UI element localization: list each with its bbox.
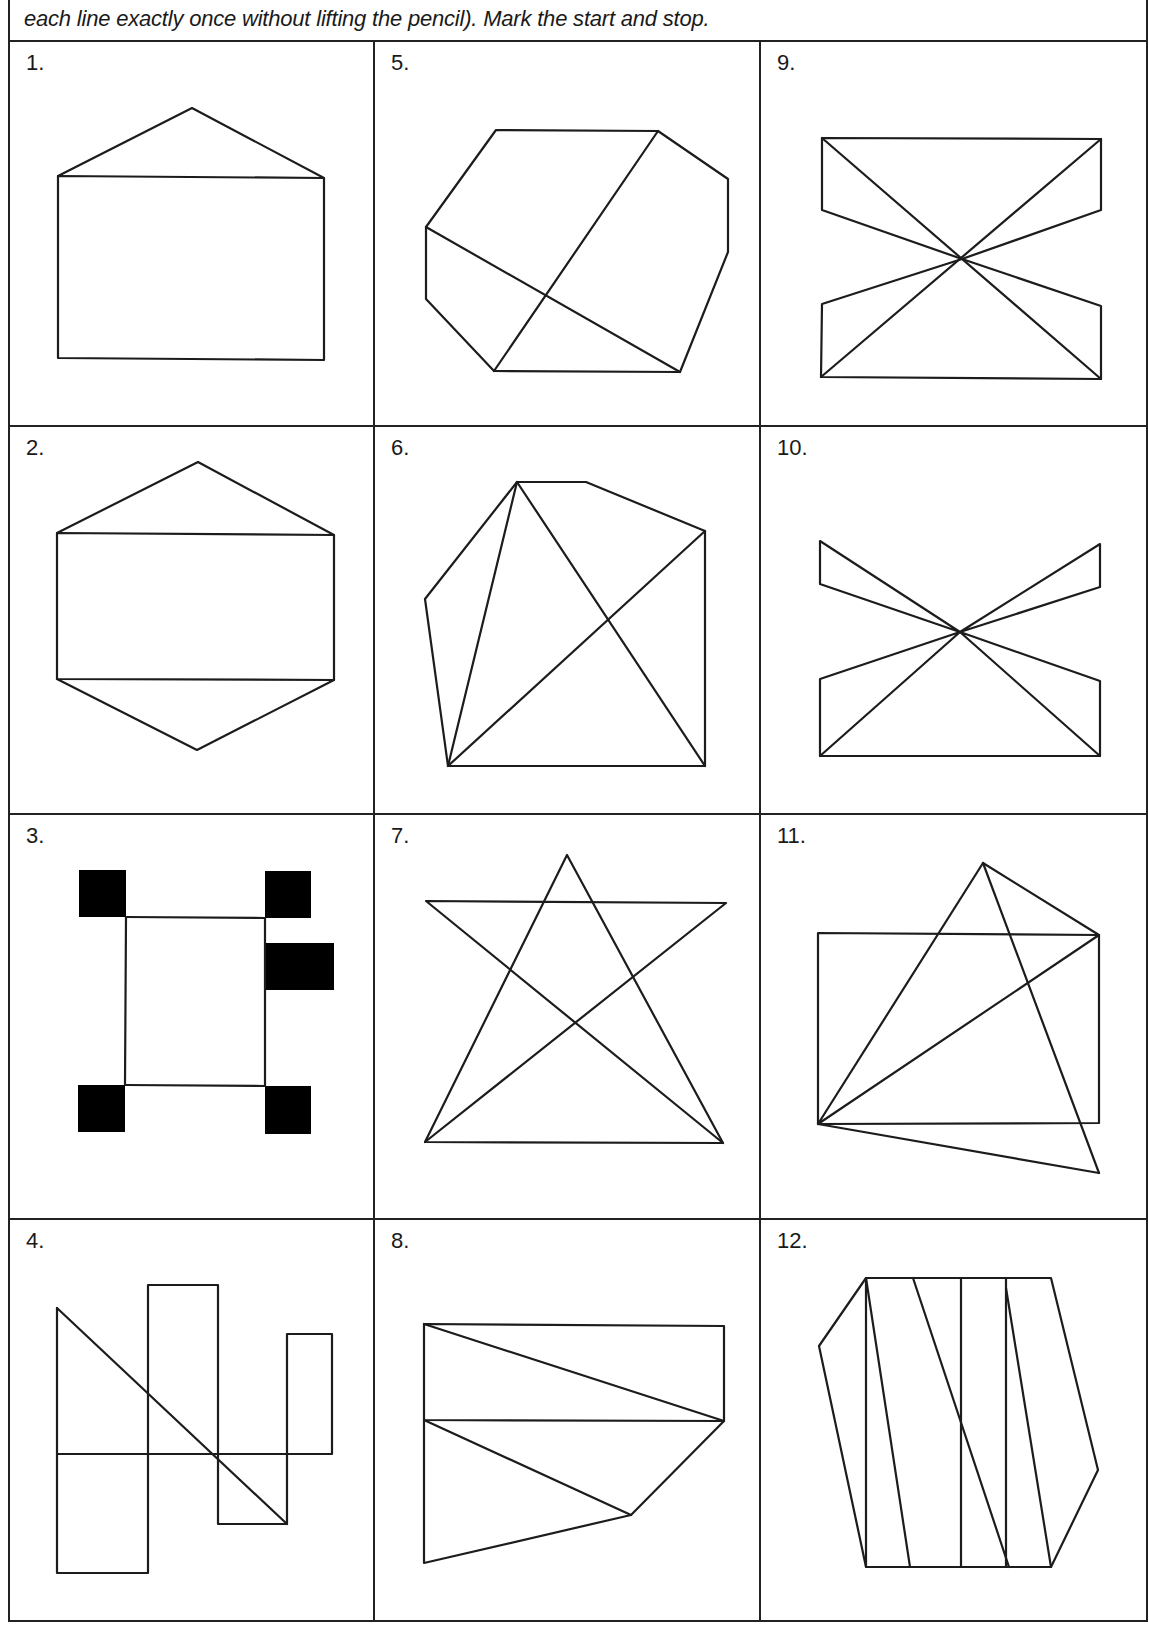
pentagon-diagonals-figure xyxy=(375,427,761,815)
rectangle-kite-figure xyxy=(761,815,1148,1220)
hexagon-figure xyxy=(10,427,377,815)
instruction-text: each line exactly once without lifting t… xyxy=(24,6,710,32)
square-frame-figure xyxy=(10,815,377,1220)
puzzle-cell-12: 12. xyxy=(761,1220,1148,1622)
hexagon-zigzag-figure xyxy=(761,1220,1148,1622)
bowtie-hourglass-figure xyxy=(761,427,1148,815)
puzzle-cell-8: 8. xyxy=(375,1220,761,1622)
puzzle-cell-5: 5. xyxy=(375,42,761,427)
octagon-figure xyxy=(375,42,761,427)
puzzle-cell-11: 11. xyxy=(761,815,1148,1220)
star-figure xyxy=(375,815,761,1220)
rectangle-hourglass-figure xyxy=(761,42,1148,427)
puzzle-cell-4: 4. xyxy=(8,1220,375,1622)
puzzle-cell-6: 6. xyxy=(375,427,761,815)
puzzle-cell-3: 3. xyxy=(8,815,375,1220)
house-shape-figure xyxy=(10,42,377,427)
rectangles-diagonal-figure xyxy=(10,1220,377,1622)
puzzle-cell-7: 7. xyxy=(375,815,761,1220)
puzzle-cell-2: 2. xyxy=(8,427,375,815)
worksheet: each line exactly once without lifting t… xyxy=(0,0,1149,1630)
puzzle-cell-9: 9. xyxy=(761,42,1148,427)
puzzle-cell-1: 1. xyxy=(8,42,375,427)
puzzle-cell-10: 10. xyxy=(761,427,1148,815)
rectangle-triangles-figure xyxy=(375,1220,761,1622)
instruction-header: each line exactly once without lifting t… xyxy=(8,0,1148,42)
